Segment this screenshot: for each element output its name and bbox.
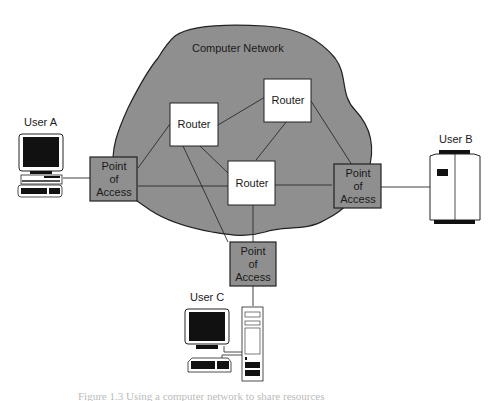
- svg-text:Access: Access: [96, 186, 132, 198]
- svg-text:of: of: [109, 173, 119, 185]
- router-label: Router: [177, 118, 210, 130]
- svg-text:of: of: [248, 258, 258, 270]
- router-label: Router: [271, 94, 304, 106]
- user-a-label: User A: [24, 116, 58, 128]
- svg-text:Access: Access: [340, 193, 376, 205]
- figure-caption: Figure 1.3 Using a computer network to s…: [78, 390, 325, 401]
- router-3: Router: [228, 161, 275, 205]
- svg-text:Access: Access: [235, 271, 271, 283]
- network-diagram: Computer Network Router Router Router Po…: [0, 0, 497, 401]
- router-label: Router: [235, 177, 268, 189]
- router-1: Router: [170, 103, 218, 146]
- mainframe-server-icon: [430, 150, 480, 224]
- desktop-computer-icon: [18, 134, 63, 197]
- point-of-access-b: Point of Access: [334, 164, 381, 208]
- user-c-label: User C: [190, 291, 224, 303]
- point-of-access-c: Point of Access: [230, 242, 276, 286]
- svg-text:of: of: [353, 180, 363, 192]
- svg-text:Point: Point: [240, 245, 265, 257]
- tower-workstation-icon: [185, 307, 263, 381]
- router-2: Router: [264, 79, 311, 122]
- user-b-label: User B: [439, 133, 473, 145]
- svg-text:Point: Point: [101, 160, 126, 172]
- point-of-access-a: Point of Access: [90, 157, 137, 201]
- network-title: Computer Network: [192, 42, 284, 54]
- svg-text:Point: Point: [345, 167, 370, 179]
